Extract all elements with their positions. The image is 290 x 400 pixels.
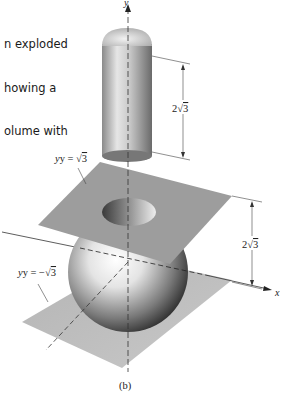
- bottom-plane-label: yy = −√3: [17, 267, 56, 278]
- cylinder-body: [102, 44, 152, 156]
- cylinder-height-label: 2√3: [172, 103, 188, 114]
- subfigure-label: (b): [119, 380, 132, 392]
- gap-height-label: 2√3: [242, 239, 258, 250]
- x-axis-left: [2, 232, 80, 248]
- exploded-volume-figure: x y 2√3 2√3 yy = √3 yy = −√3 (b): [0, 0, 290, 400]
- x-axis-arrow-icon: [263, 286, 272, 291]
- cyl-dim-arrow-down-icon: [181, 152, 185, 158]
- plane-hole: [102, 198, 156, 226]
- x-axis-label: x: [274, 287, 280, 298]
- top-plane-label: yy = √3: [54, 153, 87, 164]
- cylinder-bottom: [102, 150, 152, 162]
- gap-dim-arrow-up-icon: [250, 201, 254, 207]
- y-axis-label: y: [123, 0, 129, 8]
- gap-dim-tick-bottom: [232, 282, 262, 289]
- cyl-dim-arrow-up-icon: [181, 64, 185, 70]
- bottom-plane-leader: [38, 284, 48, 302]
- cylinder-cap: [102, 28, 152, 46]
- gap-dim-tick-top: [232, 196, 262, 202]
- cyl-dim-tick-top: [152, 56, 190, 64]
